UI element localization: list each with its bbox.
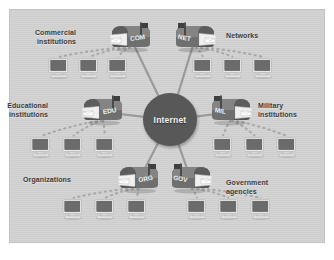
- computer-gov-3[interactable]: [250, 199, 272, 220]
- internet-hub[interactable]: Internet: [143, 93, 197, 146]
- mailbox-edu[interactable]: EDU: [80, 95, 126, 125]
- computer-org-3[interactable]: [126, 199, 148, 220]
- computer-edu-3[interactable]: [94, 137, 116, 158]
- computer-com-3[interactable]: [107, 58, 129, 79]
- computer-com-2[interactable]: [78, 58, 100, 79]
- computer-net-3[interactable]: [252, 58, 274, 79]
- computer-com-1[interactable]: [48, 58, 70, 79]
- mailbox-mil[interactable]: MIL: [208, 95, 254, 125]
- computer-mil-1[interactable]: [212, 137, 234, 158]
- label-com: Commercial institutions: [16, 28, 76, 46]
- computer-gov-1[interactable]: [186, 199, 208, 220]
- label-org: Organizations: [11, 175, 71, 184]
- internet-hub-label: Internet: [154, 115, 187, 125]
- mailbox-org[interactable]: ORG: [116, 163, 162, 193]
- mailbox-net[interactable]: NET: [172, 22, 218, 52]
- diagram-canvas: Internet COM Commercial institutions: [0, 0, 334, 260]
- label-net: Networks: [226, 31, 258, 40]
- label-mil: Military institutions: [258, 101, 297, 119]
- computer-mil-2[interactable]: [244, 137, 266, 158]
- mailbox-gov[interactable]: GOV: [168, 163, 214, 193]
- computer-edu-2[interactable]: [62, 137, 84, 158]
- computer-mil-3[interactable]: [276, 137, 298, 158]
- computer-net-2[interactable]: [222, 58, 244, 79]
- computer-org-2[interactable]: [94, 199, 116, 220]
- label-gov: Government agencies: [226, 178, 268, 196]
- mailbox-com[interactable]: COM: [108, 22, 154, 52]
- computer-edu-1[interactable]: [30, 137, 52, 158]
- computer-net-1[interactable]: [192, 58, 214, 79]
- computer-org-1[interactable]: [62, 199, 84, 220]
- label-edu: Educational institutions: [0, 101, 48, 119]
- computer-gov-2[interactable]: [218, 199, 240, 220]
